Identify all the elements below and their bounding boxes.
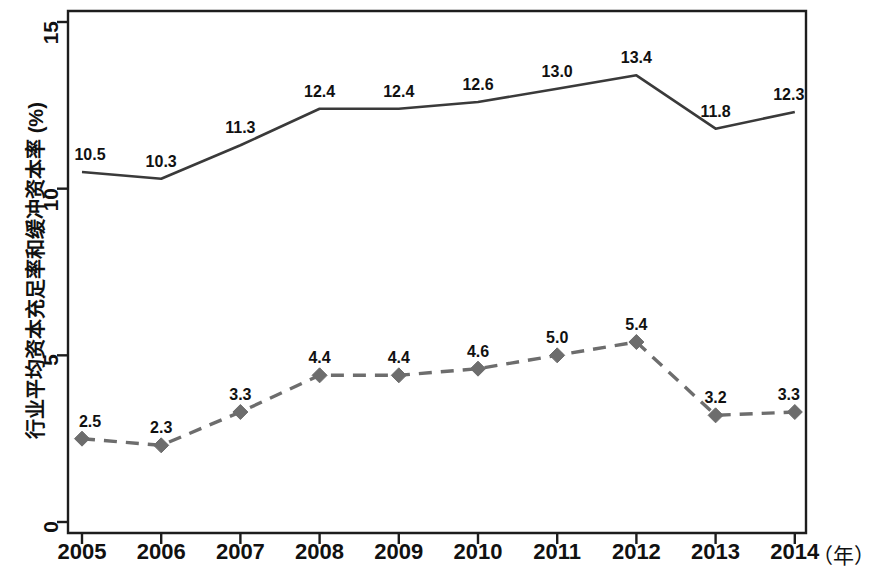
data-value-label: 12.3 [757,86,821,104]
data-point-marker [787,405,802,420]
x-tick-label: 2010 [433,539,523,565]
plot-frame [68,11,806,533]
data-value-label: 11.8 [684,103,748,121]
chart-figure: 行业平均资本充足率和缓冲资本率 (%) 05101520052006200720… [0,0,877,567]
data-value-label: 12.6 [446,76,510,94]
data-value-label: 4.6 [446,343,510,361]
data-point-marker [550,348,565,363]
data-value-label: 13.4 [604,49,668,67]
x-tick-label: 2011 [512,539,602,565]
x-tick-label: 2007 [195,539,285,565]
data-value-label: 2.3 [129,419,193,437]
x-tick-label: 2008 [275,539,365,565]
data-value-label: 4.4 [288,349,352,367]
data-value-label: 10.5 [58,146,122,164]
x-tick-label: 2012 [591,539,681,565]
data-value-label: 2.5 [58,413,122,431]
x-tick-label: 2013 [671,539,761,565]
data-point-marker [233,405,248,420]
data-value-label: 5.4 [604,316,668,334]
y-tick-label: 5 [39,354,63,394]
data-value-label: 4.4 [367,349,431,367]
data-point-marker [154,438,169,453]
data-value-label: 12.4 [288,83,352,101]
data-value-label: 5.0 [525,329,589,347]
data-point-marker [471,361,486,376]
data-value-label: 3.3 [757,386,821,404]
x-axis-unit-label: （年） [812,539,875,567]
data-point-marker [312,368,327,383]
data-value-label: 3.3 [208,386,272,404]
x-tick-label: 2009 [354,539,444,565]
y-tick-marks [57,22,68,522]
y-tick-label: 15 [39,21,63,61]
data-point-marker [75,431,90,446]
y-tick-label: 10 [39,188,63,228]
x-tick-label: 2005 [37,539,127,565]
data-value-label: 11.3 [208,119,272,137]
data-point-marker [391,368,406,383]
data-value-label: 12.4 [367,83,431,101]
data-value-label: 3.2 [684,389,748,407]
x-tick-label: 2006 [116,539,206,565]
data-value-label: 13.0 [525,63,589,81]
plot-area [0,0,877,567]
data-value-label: 10.3 [129,153,193,171]
